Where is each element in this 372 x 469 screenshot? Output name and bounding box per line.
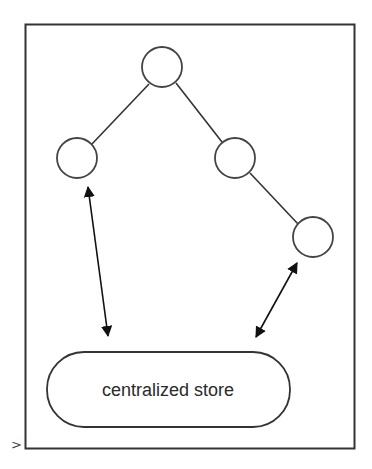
diagram-canvas: centralized store > [0, 0, 372, 469]
edge-root-left [92, 84, 149, 144]
tree-node-root [142, 47, 182, 87]
centralized-store-label: centralized store [102, 380, 234, 400]
arrow-left-to-store [88, 187, 108, 336]
tree-node-left-child [57, 138, 97, 178]
corner-marker: > [11, 437, 22, 452]
tree-node-right-grandchild [293, 217, 333, 257]
arrow-right-to-store [256, 263, 297, 337]
edge-right-grandchild [250, 173, 298, 224]
edge-root-right [176, 83, 222, 142]
tree-node-right-child [215, 138, 255, 178]
